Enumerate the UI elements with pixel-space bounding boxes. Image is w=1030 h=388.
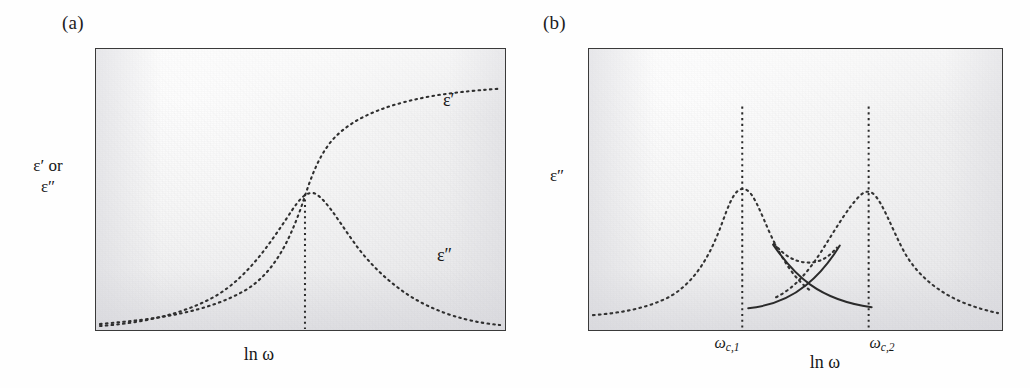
- panel-a-caption: (a): [62, 12, 84, 34]
- x-tick-omega-c2-symbol: ω: [869, 334, 880, 351]
- panel-b-x-axis-label: ln ω: [810, 352, 840, 373]
- x-tick-omega-c1-subscript: c,1: [726, 341, 740, 353]
- panel-a-x-axis-label: ln ω: [244, 344, 274, 365]
- x-tick-omega-c1-symbol: ω: [714, 334, 725, 351]
- panel-b-caption: (b): [543, 12, 566, 34]
- panel-a-y-axis-label-line1: ε′ or: [8, 155, 88, 176]
- figure-root: (a) ε′ or ε″ ln ω ε′ ε″ (b): [0, 0, 1030, 388]
- panel-b: (b) ε″ ln ω ωc,1: [515, 0, 1030, 388]
- curve-label-epsilon-double-prime: ε″: [437, 245, 452, 266]
- panel-a-y-axis-label: ε′ or ε″: [8, 155, 88, 198]
- x-tick-label-omega-c2: ωc,2: [869, 334, 894, 353]
- x-tick-label-omega-c1: ωc,1: [714, 334, 739, 353]
- curve-label-epsilon-prime: ε′: [443, 90, 455, 111]
- curve-component-2-rise: [748, 246, 840, 309]
- panel-b-plot-area: [588, 48, 1003, 331]
- panel-b-y-axis-label: ε″: [535, 165, 579, 186]
- panel-a-y-axis-label-line2: ε″: [8, 176, 88, 197]
- x-tick-omega-c2-subscript: c,2: [881, 341, 895, 353]
- curve-peak-2: [776, 192, 998, 313]
- panel-a: (a) ε′ or ε″ ln ω ε′ ε″: [0, 0, 515, 388]
- panel-b-curves: [589, 49, 1002, 330]
- curve-epsilon-prime: [100, 89, 500, 324]
